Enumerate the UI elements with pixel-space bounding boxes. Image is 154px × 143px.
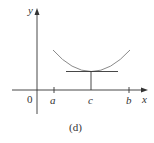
tick-label-c: c: [88, 94, 93, 106]
y-axis-label: y: [27, 4, 33, 16]
x-axis-arrow-icon: [141, 88, 148, 93]
caption: (d): [69, 121, 82, 134]
tick-label-b: b: [126, 94, 132, 106]
figure-d: y x 0 a c b (d): [0, 0, 154, 143]
diagram-canvas: y x 0 a c b (d): [0, 0, 154, 143]
curve: [53, 50, 130, 72]
y-axis-arrow-icon: [35, 8, 40, 15]
tick-label-a: a: [50, 94, 56, 106]
x-axis-label: x: [141, 93, 147, 105]
origin-label: 0: [27, 93, 33, 105]
